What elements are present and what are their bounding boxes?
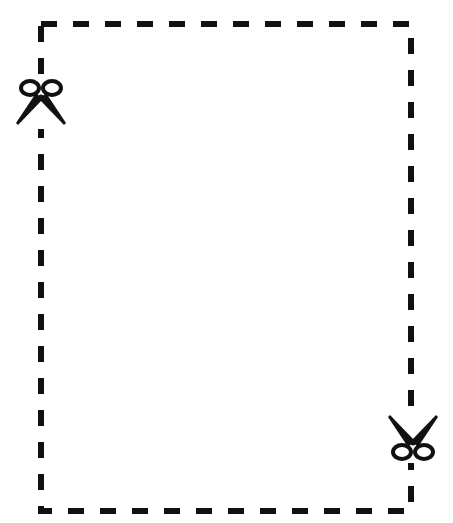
- scissors-icon: [15, 77, 67, 129]
- scissors-icon: [387, 411, 439, 463]
- dashed-cut-border: [0, 0, 453, 523]
